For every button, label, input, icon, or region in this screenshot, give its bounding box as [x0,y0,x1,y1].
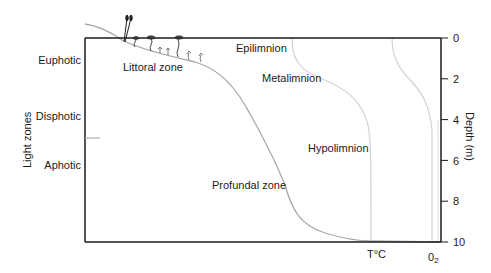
littoral-zone-label: Littoral zone [123,62,183,73]
oxygen-profile-curve [392,38,432,241]
depth-tick-2: 2 [453,74,459,85]
oxygen-label-subscript: 2 [434,256,438,265]
depth-axis-ticks [441,38,448,242]
oxygen-label: 02 [428,252,439,265]
depth-axis-title: Depth (m) [464,112,476,161]
diagram-canvas [0,0,491,273]
depth-tick-6: 6 [453,156,459,167]
depth-tick-10: 10 [453,237,465,248]
epilimnion-label: Epilimnion [236,43,287,54]
aphotic-label: Aphotic [44,160,81,171]
depth-tick-0: 0 [453,33,459,44]
euphotic-label: Euphotic [38,55,81,66]
lake-zonation-diagram: Euphotic Disphotic Aphotic Light zones E… [0,0,491,273]
profundal-zone-label: Profundal zone [212,180,286,191]
metalimnion-label: Metalimnion [262,73,321,84]
disphotic-label: Disphotic [36,111,81,122]
floating-leaf-plant-icons [133,36,183,57]
temperature-label: T°C [367,249,386,260]
temperature-profile-curve [292,38,371,241]
light-zones-axis-title: Light zones [21,112,33,168]
hypolimnion-label: Hypolimnion [308,143,369,154]
depth-tick-4: 4 [453,115,459,126]
depth-tick-8: 8 [453,196,459,207]
lake-bottom-profile [85,24,441,242]
